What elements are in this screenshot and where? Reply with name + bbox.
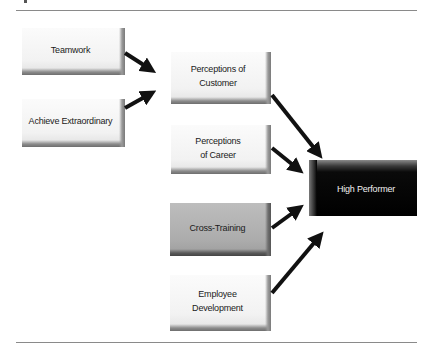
arrow-teamwork-to-customer (125, 53, 150, 69)
arrow-achieve-to-customer (125, 94, 150, 108)
arrows-layer (0, 0, 432, 351)
arrow-crosstraining-to-performer (272, 209, 298, 228)
arrow-customer-to-performer (272, 95, 318, 153)
arrow-career-to-performer (272, 148, 298, 169)
bottom-rule (16, 342, 417, 343)
arrow-development-to-performer (272, 237, 319, 293)
